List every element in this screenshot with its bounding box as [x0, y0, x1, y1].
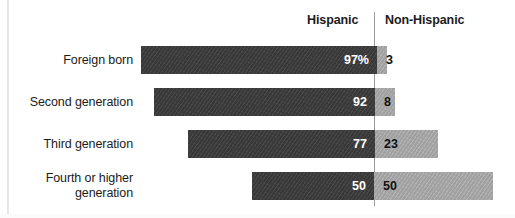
bottom-edge-artifact — [0, 214, 515, 218]
row-label-line1: Second generation — [30, 95, 133, 109]
bar-value-non-hispanic: 23 — [384, 130, 398, 158]
bar-value-hispanic: 77 — [353, 130, 367, 158]
bar-segment-hispanic: 92 — [154, 88, 375, 116]
bar-segment-non-hispanic: 50 — [374, 172, 493, 200]
bar-value-hispanic: 50 — [352, 172, 366, 200]
row-label-line1: Foreign born — [63, 53, 133, 67]
bar-segment-non-hispanic: 8 — [375, 88, 395, 116]
row-label-third-generation: Third generation — [0, 137, 133, 152]
bar-value-hispanic: 92 — [353, 88, 367, 116]
bar-fourth-or-higher-generation: 50 50 — [252, 172, 493, 200]
bar-third-generation: 77 23 — [188, 130, 438, 158]
row-label-fourth-or-higher-generation: Fourth or higher generation — [0, 171, 133, 201]
row-label-second-generation: Second generation — [0, 95, 133, 110]
bar-second-generation: 92 8 — [154, 88, 395, 116]
stacked-bar-chart: Hispanic Non-Hispanic Foreign born 97% 3… — [0, 0, 515, 218]
bar-segment-hispanic: 97% — [141, 46, 377, 74]
bar-value-hispanic: 97% — [344, 46, 369, 74]
bar-segment-non-hispanic: 23 — [375, 130, 438, 158]
bar-segment-hispanic: 77 — [188, 130, 375, 158]
row-label-line1: Fourth or higher — [0, 171, 133, 186]
bar-segment-hispanic: 50 — [252, 172, 374, 200]
bar-value-non-hispanic: 3 — [386, 46, 393, 74]
bar-segment-non-hispanic: 3 — [377, 46, 387, 74]
bar-value-non-hispanic: 50 — [383, 172, 397, 200]
bar-foreign-born: 97% 3 — [141, 46, 387, 74]
row-label-line2: generation — [0, 186, 133, 201]
bar-value-non-hispanic: 8 — [384, 88, 391, 116]
row-label-line1: Third generation — [44, 137, 133, 151]
chart-rows: Foreign born 97% 3 Second generation 92 — [0, 0, 515, 218]
row-label-foreign-born: Foreign born — [0, 53, 133, 68]
